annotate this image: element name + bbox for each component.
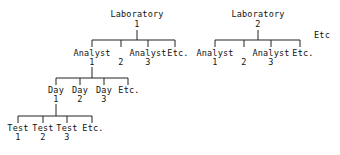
analyst-3-number: 3	[145, 57, 150, 67]
test-etc-label: Etc.	[82, 123, 103, 133]
test-3-number: 3	[64, 132, 69, 142]
test-2-number: 2	[40, 132, 45, 142]
analyst-2-number: 2	[118, 57, 123, 67]
lab2-analyst-etc-label: Etc.	[292, 48, 313, 58]
lab2-analyst-1-number: 1	[212, 57, 217, 67]
day-3-number: 3	[101, 94, 106, 104]
day-2-number: 2	[77, 94, 82, 104]
analyst-etc-label: Etc.	[167, 48, 188, 58]
analyst-1-number: 1	[89, 57, 94, 67]
day-1-number: 1	[53, 94, 58, 104]
laboratory-1-label: Laboratory	[110, 9, 163, 19]
laboratory-2-label: Laboratory	[231, 9, 284, 19]
laboratory-2-number: 2	[255, 19, 260, 29]
laboratory-etc-label: Etc	[314, 30, 330, 40]
test-1-number: 1	[15, 132, 20, 142]
lab2-analyst-2-number: 2	[241, 57, 246, 67]
laboratory-1-number: 1	[134, 19, 139, 29]
lab2-analyst-3-number: 3	[268, 57, 273, 67]
day-etc-label: Etc.	[118, 85, 139, 95]
